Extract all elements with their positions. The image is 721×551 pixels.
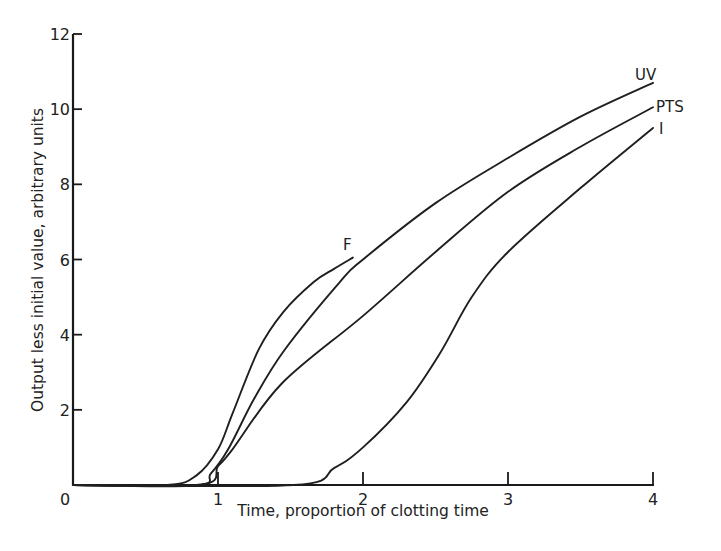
y-tick-label: 12 xyxy=(50,25,70,44)
x-tick-label: 4 xyxy=(648,490,658,509)
y-tick-label: 8 xyxy=(60,175,70,194)
y-tick-label: 6 xyxy=(60,251,70,270)
curve-uv xyxy=(73,83,653,486)
curve-label-pts: PTS xyxy=(656,98,684,116)
curve-f xyxy=(73,258,353,486)
curve-label-i: I xyxy=(659,120,663,138)
y-tick-label: 2 xyxy=(60,401,70,420)
x-tick-label: 0 xyxy=(60,490,70,509)
curve-i xyxy=(73,128,653,486)
y-tick-label: 10 xyxy=(50,100,70,119)
curve-label-f: F xyxy=(343,236,352,254)
y-axis-label: Output less initial value, arbitrary uni… xyxy=(29,108,47,412)
curves xyxy=(73,83,653,487)
curve-pts xyxy=(73,107,653,486)
x-tick-label: 3 xyxy=(503,490,513,509)
x-tick-label: 1 xyxy=(213,490,223,509)
curve-label-uv: UV xyxy=(635,66,657,84)
chart: 24681012 01234 Time, proportion of clott… xyxy=(0,0,721,551)
y-ticks: 24681012 xyxy=(50,25,82,420)
x-axis-label: Time, proportion of clotting time xyxy=(236,502,489,520)
y-tick-label: 4 xyxy=(60,326,70,345)
